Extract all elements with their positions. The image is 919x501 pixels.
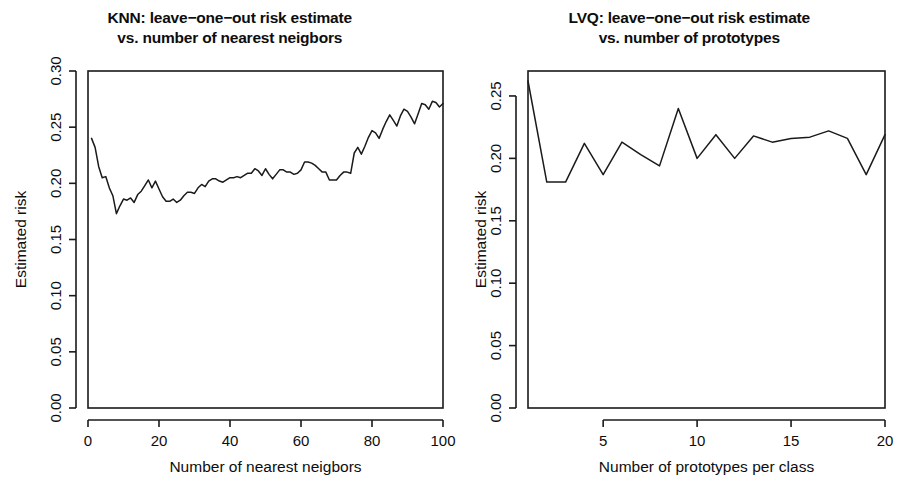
knn-plot: 0.000.050.100.150.200.250.30020406080100… <box>0 0 460 501</box>
y-tick-label: 0.05 <box>487 331 504 360</box>
lvq-plot: 0.000.050.100.150.200.255101520Number of… <box>460 0 919 501</box>
x-tick-label: 15 <box>782 432 799 449</box>
x-tick-label: 20 <box>151 432 168 449</box>
data-series-line <box>92 101 443 213</box>
x-tick-label: 5 <box>598 432 606 449</box>
y-tick-label: 0.00 <box>487 393 504 422</box>
y-tick-label: 0.15 <box>47 225 64 254</box>
y-axis-title: Estimated risk <box>12 191 29 289</box>
x-tick-label: 80 <box>364 432 381 449</box>
y-tick-label: 0.00 <box>47 393 64 422</box>
y-tick-label: 0.05 <box>47 337 64 366</box>
x-tick-label: 20 <box>876 432 893 449</box>
x-tick-label: 100 <box>430 432 455 449</box>
x-tick-label: 40 <box>222 432 239 449</box>
y-tick-label: 0.30 <box>47 56 64 85</box>
x-axis-title: Number of nearest neigbors <box>169 458 361 475</box>
x-tick-label: 60 <box>293 432 310 449</box>
y-axis-title: Estimated risk <box>472 191 489 289</box>
y-tick-label: 0.10 <box>487 269 504 298</box>
plot-box <box>88 71 443 408</box>
x-tick-label: 0 <box>84 432 92 449</box>
x-axis-title: Number of prototypes per class <box>598 458 814 475</box>
data-series-line <box>528 81 885 182</box>
y-tick-label: 0.20 <box>47 169 64 198</box>
y-tick-label: 0.15 <box>487 206 504 235</box>
y-tick-label: 0.10 <box>47 281 64 310</box>
plot-box <box>528 71 885 408</box>
x-tick-label: 10 <box>688 432 705 449</box>
lvq-panel: LVQ: leave−one−out risk estimate vs. num… <box>460 0 919 501</box>
knn-panel: KNN: leave−one−out risk estimate vs. num… <box>0 0 460 501</box>
y-tick-label: 0.20 <box>487 144 504 173</box>
y-tick-label: 0.25 <box>47 113 64 142</box>
figure-container: KNN: leave−one−out risk estimate vs. num… <box>0 0 919 501</box>
y-tick-label: 0.25 <box>487 81 504 110</box>
